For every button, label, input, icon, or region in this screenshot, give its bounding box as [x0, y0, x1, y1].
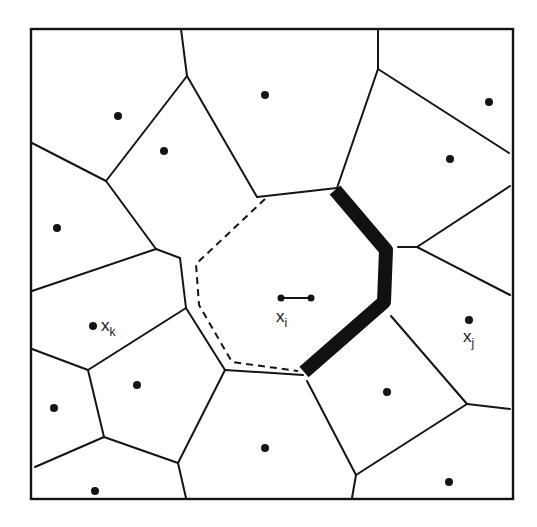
edge — [35, 437, 104, 467]
site-point — [133, 381, 141, 389]
site-point — [261, 91, 269, 99]
voronoi-edges — [32, 29, 510, 498]
site-point-xi — [278, 295, 285, 302]
edge — [187, 76, 257, 197]
site-point — [485, 98, 493, 106]
edge — [32, 143, 106, 181]
bounding-frame — [31, 29, 513, 499]
edge — [352, 475, 356, 498]
label-xi: xi — [276, 307, 287, 330]
edge — [104, 437, 178, 463]
xi-displacement — [278, 295, 315, 302]
edge — [225, 370, 303, 375]
dashed-boundary — [196, 199, 298, 371]
edge — [417, 186, 510, 247]
site-point-xk — [89, 322, 97, 330]
site-point — [445, 478, 453, 486]
xi-segment-end — [308, 295, 315, 302]
voronoi-diagram: xi xj xk — [0, 0, 537, 527]
edge — [32, 349, 88, 370]
edge — [156, 249, 180, 258]
site-point — [446, 155, 454, 163]
site-point — [114, 112, 122, 120]
edge — [32, 249, 156, 291]
edge — [257, 188, 337, 197]
sites — [50, 91, 493, 495]
label-xj: xj — [463, 327, 474, 350]
edge — [88, 370, 104, 437]
edge — [391, 316, 467, 404]
edge — [307, 381, 356, 475]
label-xk: xk — [101, 316, 117, 339]
edge — [378, 69, 509, 153]
edge — [356, 404, 467, 475]
edge — [467, 404, 510, 409]
edge — [337, 69, 378, 188]
site-point — [50, 404, 58, 412]
site-point — [53, 224, 61, 232]
edge — [181, 29, 187, 76]
site-point — [91, 487, 99, 495]
edge — [178, 370, 225, 463]
site-point — [383, 388, 391, 396]
site-point-xj — [465, 316, 473, 324]
edge — [106, 76, 187, 181]
highlighted-shared-edge — [304, 190, 386, 372]
site-point — [160, 147, 168, 155]
edge — [180, 258, 186, 308]
edge — [178, 463, 186, 498]
edge — [106, 181, 156, 249]
site-point — [261, 444, 269, 452]
edge — [417, 247, 510, 295]
